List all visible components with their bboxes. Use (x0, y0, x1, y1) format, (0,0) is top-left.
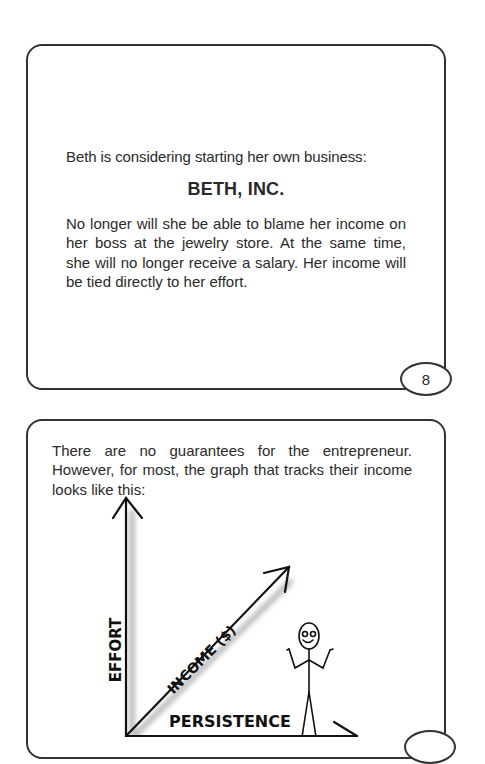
persistence-label: PERSISTENCE (169, 712, 291, 731)
effort-label: EFFORT (107, 617, 125, 682)
income-label: INCOME ($) (164, 622, 239, 697)
effort-axis-arrow (113, 498, 142, 737)
stick-figure (287, 623, 333, 737)
